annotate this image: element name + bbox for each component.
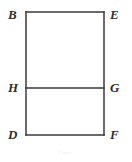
vertex-label-E: E <box>110 8 119 21</box>
vertex-label-G: G <box>110 81 119 94</box>
figure-caption-artifact: Figure <box>0 150 132 155</box>
vertex-label-H: H <box>8 81 18 94</box>
geometry-figure: B E H G D F Figure <box>0 0 132 162</box>
vertex-label-F: F <box>110 128 119 141</box>
vertex-label-B: B <box>8 8 17 21</box>
vertex-label-D: D <box>8 128 17 141</box>
